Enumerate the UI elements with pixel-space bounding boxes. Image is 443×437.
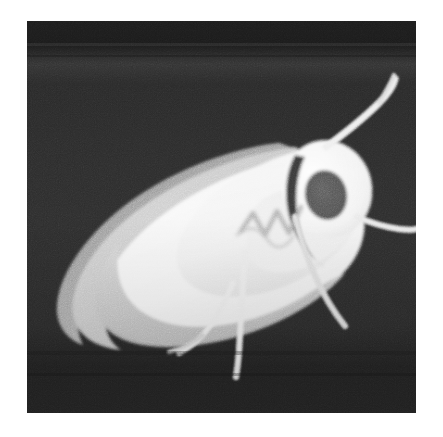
illustration-canvas — [27, 21, 416, 413]
moth-illustration — [27, 21, 416, 413]
image-root: Noisy grayscale illustration of a moth-l… — [0, 0, 443, 437]
